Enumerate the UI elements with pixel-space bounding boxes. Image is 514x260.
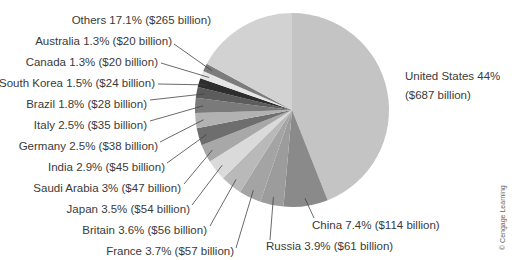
- label-italy: Italy 2.5% ($35 billion): [34, 119, 147, 131]
- leader-line-saudi-arabia: [184, 150, 212, 184]
- leader-line-australia: [174, 44, 212, 71]
- label-germany: Germany 2.5% ($38 billion): [19, 140, 159, 152]
- leader-line-france: [236, 190, 253, 248]
- label-india: India 2.9% ($45 billion): [48, 161, 165, 173]
- label-saudi-arabia: Saudi Arabia 3% ($47 billion): [33, 182, 181, 194]
- label-britain: Britain 3.6% ($56 billion): [82, 224, 207, 236]
- leader-line-britain: [210, 179, 236, 226]
- label-south-korea: South Korea 1.5% ($24 billion): [0, 77, 155, 89]
- pie-slices: [195, 13, 389, 207]
- pie-chart: United States 44% ($687 billion) China 7…: [0, 0, 514, 260]
- leader-line-india: [167, 135, 206, 163]
- leader-line-germany: [160, 120, 204, 142]
- label-france: France 3.7% ($57 billion): [106, 245, 234, 257]
- label-canada: Canada 1.3% ($20 billion): [26, 56, 159, 68]
- label-others: Others 17.1% ($265 billion): [72, 14, 212, 26]
- label-australia: Australia 1.3% ($20 billion): [35, 35, 172, 47]
- label-united-states: United States 44%: [405, 70, 500, 82]
- label-brazil: Brazil 1.8% ($28 billion): [26, 98, 147, 110]
- label-china: China 7.4% ($114 billion): [312, 219, 440, 231]
- credit-text: © Cengage Learning: [499, 185, 507, 250]
- label-japan: Japan 3.5% ($54 billion): [67, 203, 191, 215]
- leader-line-canada: [161, 63, 209, 78]
- leader-line-japan: [192, 165, 222, 205]
- label-russia: Russia 3.9% ($61 billion): [266, 240, 393, 252]
- label-united-states-value: ($687 billion): [405, 89, 471, 101]
